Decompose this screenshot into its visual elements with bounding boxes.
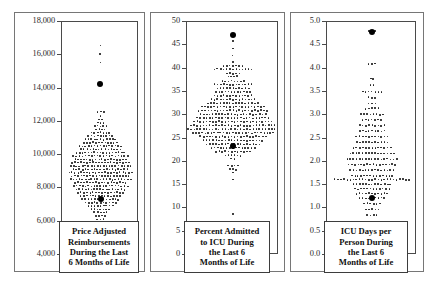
data-point bbox=[231, 165, 233, 167]
data-point bbox=[383, 158, 385, 160]
y-tick-label: 4.0 bbox=[310, 64, 320, 72]
data-point bbox=[359, 197, 361, 199]
y-tick-mark bbox=[182, 44, 187, 45]
data-point bbox=[245, 132, 247, 134]
data-point bbox=[347, 179, 349, 181]
data-point bbox=[389, 164, 391, 166]
y-tick-label: 14,000 bbox=[33, 84, 55, 92]
data-point bbox=[85, 179, 87, 181]
data-point bbox=[251, 69, 253, 71]
data-point bbox=[101, 148, 103, 150]
data-point bbox=[362, 158, 364, 160]
data-point bbox=[115, 189, 117, 191]
data-point bbox=[402, 178, 404, 180]
data-point bbox=[223, 147, 225, 149]
data-point bbox=[227, 165, 229, 167]
data-point bbox=[103, 165, 105, 167]
data-point bbox=[235, 88, 237, 90]
data-point bbox=[383, 179, 385, 181]
data-point bbox=[109, 185, 111, 187]
data-point bbox=[231, 121, 233, 123]
data-point bbox=[252, 136, 254, 138]
data-point bbox=[199, 128, 201, 130]
data-point bbox=[101, 162, 103, 164]
data-point bbox=[362, 141, 364, 143]
data-point bbox=[86, 162, 88, 164]
data-point bbox=[232, 40, 234, 42]
data-point bbox=[266, 110, 268, 112]
data-point bbox=[377, 142, 379, 144]
data-point bbox=[391, 163, 393, 165]
data-point bbox=[212, 139, 214, 141]
data-point bbox=[233, 76, 235, 78]
data-point bbox=[255, 144, 257, 146]
data-point bbox=[235, 102, 237, 104]
data-point bbox=[116, 162, 118, 164]
data-point bbox=[92, 161, 94, 163]
data-point bbox=[106, 145, 108, 147]
data-point bbox=[232, 73, 234, 75]
data-point bbox=[356, 193, 358, 195]
data-point bbox=[376, 113, 378, 115]
data-point bbox=[215, 117, 217, 119]
data-point bbox=[74, 161, 76, 163]
data-point bbox=[232, 61, 234, 63]
data-point bbox=[229, 95, 231, 97]
data-point bbox=[221, 124, 223, 126]
data-point bbox=[104, 192, 106, 194]
data-point bbox=[205, 133, 207, 135]
data-point bbox=[359, 192, 361, 194]
data-point bbox=[237, 125, 239, 127]
data-point bbox=[196, 125, 198, 127]
data-point bbox=[229, 84, 231, 86]
data-point bbox=[108, 189, 110, 191]
data-point bbox=[99, 188, 101, 190]
data-point bbox=[99, 209, 101, 211]
data-point bbox=[373, 175, 375, 177]
data-point bbox=[94, 201, 96, 203]
data-point bbox=[74, 182, 76, 184]
y-tick-mark bbox=[182, 21, 187, 22]
data-point bbox=[93, 132, 95, 134]
data-point bbox=[81, 175, 83, 177]
data-point bbox=[209, 114, 211, 116]
data-point bbox=[249, 113, 251, 115]
data-point bbox=[377, 153, 379, 155]
data-point bbox=[374, 97, 376, 99]
data-point bbox=[97, 205, 99, 207]
data-point bbox=[248, 83, 250, 85]
data-point bbox=[226, 147, 228, 149]
data-point bbox=[114, 139, 116, 141]
data-point bbox=[350, 179, 352, 181]
data-point bbox=[213, 102, 215, 104]
data-point bbox=[128, 175, 130, 177]
data-point bbox=[216, 98, 218, 100]
data-point bbox=[76, 179, 78, 181]
data-point bbox=[96, 169, 98, 171]
data-point bbox=[377, 183, 379, 185]
y-tick-label: 3.0 bbox=[310, 110, 320, 118]
data-point bbox=[207, 103, 209, 105]
data-point bbox=[236, 110, 238, 112]
data-point bbox=[379, 203, 381, 205]
data-point bbox=[362, 197, 364, 199]
data-point bbox=[377, 147, 379, 149]
data-point bbox=[355, 179, 357, 181]
data-point bbox=[362, 91, 364, 93]
data-point bbox=[352, 152, 354, 154]
data-point bbox=[78, 168, 80, 170]
data-point bbox=[235, 73, 237, 75]
data-point bbox=[210, 106, 212, 108]
data-point bbox=[249, 125, 251, 127]
y-tick-label: 40 bbox=[172, 64, 180, 72]
data-point bbox=[222, 80, 224, 82]
data-point bbox=[359, 178, 361, 180]
data-point bbox=[121, 188, 123, 190]
data-point bbox=[374, 136, 376, 138]
data-point bbox=[203, 139, 205, 141]
data-point bbox=[101, 215, 103, 217]
y-tick-mark bbox=[57, 154, 62, 155]
data-point bbox=[349, 169, 351, 171]
y-tick-label: 30 bbox=[172, 110, 180, 118]
data-point bbox=[112, 188, 114, 190]
